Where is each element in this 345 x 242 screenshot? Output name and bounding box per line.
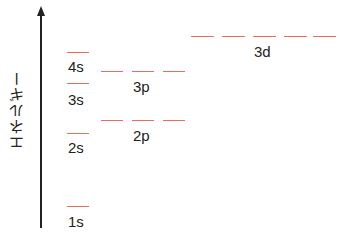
orbital-3d-2 [222, 36, 245, 37]
orbital-2p-3 [163, 120, 185, 121]
label-4s: 4s [68, 59, 84, 75]
orbital-2p-2 [132, 120, 154, 121]
orbital-3s [67, 83, 89, 84]
orbital-2s [67, 133, 89, 134]
orbital-3d-5 [313, 36, 336, 37]
energy-axis [40, 14, 42, 228]
orbital-1s [67, 206, 89, 207]
axis-label: エネルギー [8, 70, 32, 150]
label-2s: 2s [68, 140, 84, 156]
label-2p: 2p [133, 128, 150, 144]
energy-level-diagram: エネルギー 1s 2s 2p 3s 3p 4s 3d [0, 0, 345, 242]
orbital-3d-3 [253, 36, 276, 37]
label-3s: 3s [68, 92, 84, 108]
orbital-3p-3 [163, 71, 185, 72]
orbital-4s [67, 52, 89, 53]
orbital-3d-1 [191, 36, 214, 37]
orbital-3d-4 [284, 36, 307, 37]
orbital-3p-2 [132, 71, 154, 72]
orbital-3p-1 [101, 71, 123, 72]
label-3d: 3d [254, 44, 271, 60]
orbital-2p-1 [101, 120, 123, 121]
label-1s: 1s [68, 214, 84, 230]
label-3p: 3p [133, 79, 150, 95]
